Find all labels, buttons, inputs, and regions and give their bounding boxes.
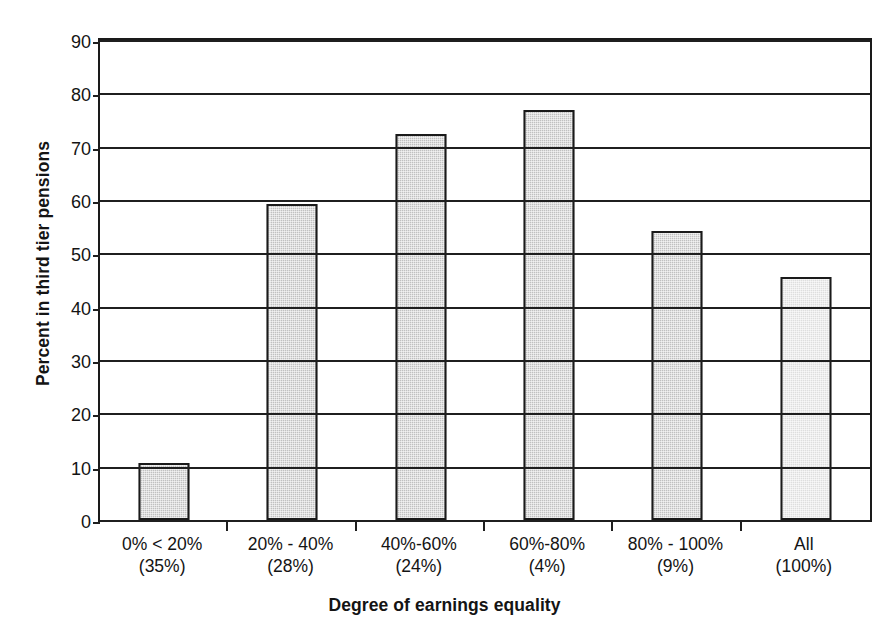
gridline-0: 0 (100, 520, 870, 522)
y-tick-mark (93, 95, 100, 97)
gridline-10: 10 (100, 467, 870, 469)
y-tick-label: 20 (31, 406, 91, 424)
bars-layer (100, 40, 870, 520)
y-tick-label: 0 (31, 513, 91, 531)
x-tick-mark (740, 520, 742, 531)
bar-1 (139, 463, 190, 520)
y-tick-label: 40 (31, 300, 91, 318)
x-tick-mark (355, 520, 357, 531)
bar-5 (652, 231, 703, 520)
y-tick-label: 50 (31, 246, 91, 264)
y-tick-label: 60 (31, 193, 91, 211)
bar-slot (485, 40, 613, 520)
bar-slot (357, 40, 485, 520)
bar-slot (742, 40, 870, 520)
y-tick-mark (93, 469, 100, 471)
gridline-20: 20 (100, 413, 870, 415)
gridline-30: 30 (100, 360, 870, 362)
bar-6 (780, 277, 831, 520)
gridline-40: 40 (100, 307, 870, 309)
x-category-range: All (794, 534, 813, 554)
x-category-range: 0% < 20% (122, 534, 202, 554)
gridline-80: 80 (100, 93, 870, 95)
y-tick-mark (93, 202, 100, 204)
bar-chart: Percent in third tier pensions 010203040… (0, 0, 889, 633)
bar-3 (395, 134, 446, 520)
bar-slot (228, 40, 356, 520)
y-tick-label: 80 (31, 86, 91, 104)
bar-slot (100, 40, 228, 520)
y-tick-mark (93, 149, 100, 151)
gridline-60: 60 (100, 200, 870, 202)
y-tick-mark (93, 362, 100, 364)
y-tick-mark (93, 255, 100, 257)
x-tick-mark (226, 520, 228, 531)
bar-slot (613, 40, 741, 520)
y-tick-label: 30 (31, 353, 91, 371)
x-category-label-6: All(100%) (724, 533, 884, 578)
x-category-range: 60%-80% (509, 534, 585, 554)
x-tick-mark (483, 520, 485, 531)
y-tick-label: 90 (31, 33, 91, 51)
y-tick-mark (93, 309, 100, 311)
x-tick-mark (611, 520, 613, 531)
x-category-range: 20% - 40% (248, 534, 334, 554)
y-tick-mark (93, 415, 100, 417)
x-axis-title: Degree of earnings equality (0, 595, 889, 616)
x-category-range: 80% - 100% (628, 534, 723, 554)
gridline-70: 70 (100, 147, 870, 149)
y-tick-mark (93, 42, 100, 44)
bar-2 (267, 204, 318, 520)
bar-4 (524, 110, 575, 520)
x-category-range: 40%-60% (381, 534, 457, 554)
y-tick-label: 70 (31, 140, 91, 158)
plot-area: 0102030405060708090 (98, 38, 872, 522)
gridline-90: 90 (100, 40, 870, 42)
y-tick-mark (93, 522, 100, 524)
x-category-share: (100%) (724, 555, 884, 577)
gridline-50: 50 (100, 253, 870, 255)
y-tick-label: 10 (31, 460, 91, 478)
